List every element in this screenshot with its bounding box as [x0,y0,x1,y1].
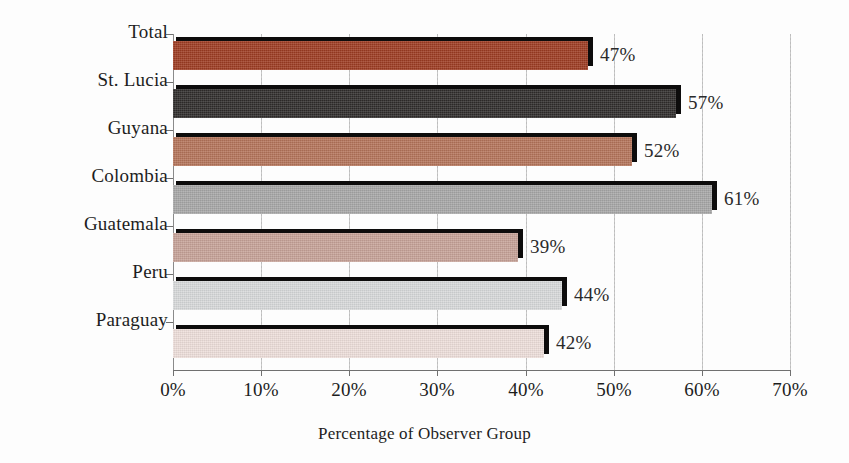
x-tick-70 [790,370,791,376]
bar-shadow-top [176,133,637,137]
category-label-guyana: Guyana [0,117,168,139]
category-label-st-lucia: St. Lucia [0,69,168,91]
x-tick-40 [526,370,527,376]
bar-shadow-right [544,325,549,354]
bar-shadow-top [176,325,549,329]
x-tick-label-50: 50% [574,379,654,401]
bar-guatemala [173,229,523,262]
x-tick-0 [173,370,174,376]
value-label-peru: 44% [574,284,609,306]
bar-shadow-top [176,85,681,89]
value-label-paraguay: 42% [556,332,591,354]
bar-guyana [173,133,637,166]
x-tick-label-20: 20% [309,379,389,401]
x-tick-label-0: 0% [133,379,213,401]
bar-colombia [173,181,717,214]
value-label-total: 47% [600,44,635,66]
bar-body [173,233,518,262]
x-tick-label-10: 10% [221,379,301,401]
x-axis-title: Percentage of Observer Group [0,424,849,444]
bar-shadow-right [676,85,681,114]
bar-chart: Percentage of Observer Group 0%10%20%30%… [0,0,849,463]
x-axis-line [173,370,791,371]
category-label-total: Total [0,21,168,43]
bar-shadow-right [562,277,567,306]
category-label-peru: Peru [0,261,168,283]
bar-total [173,37,593,70]
bar-peru [173,277,567,310]
bar-shadow-top [176,277,567,281]
x-tick-label-70: 70% [750,379,830,401]
category-label-colombia: Colombia [0,165,168,187]
bar-shadow-right [712,181,717,210]
x-tick-label-30: 30% [397,379,477,401]
bar-shadow-top [176,181,717,185]
bar-st-lucia [173,85,681,118]
bar-shadow-right [518,229,523,258]
value-label-guyana: 52% [644,140,679,162]
x-tick-20 [349,370,350,376]
x-tick-30 [437,370,438,376]
bar-shadow-top [176,229,523,233]
x-tick-10 [261,370,262,376]
x-tick-label-60: 60% [662,379,742,401]
gridline-70 [790,34,791,370]
value-label-st-lucia: 57% [688,92,723,114]
x-tick-60 [702,370,703,376]
value-label-guatemala: 39% [530,236,565,258]
bar-body [173,89,676,118]
category-label-paraguay: Paraguay [0,309,168,331]
value-label-colombia: 61% [724,188,759,210]
bar-paraguay [173,325,549,358]
bar-body [173,329,544,358]
bar-body [173,41,588,70]
x-tick-label-40: 40% [486,379,566,401]
bar-shadow-top [176,37,593,41]
bar-body [173,281,562,310]
bar-shadow-right [588,37,593,66]
bar-body [173,137,632,166]
bar-shadow-right [632,133,637,162]
bar-body [173,185,712,214]
x-tick-50 [614,370,615,376]
category-label-guatemala: Guatemala [0,213,168,235]
